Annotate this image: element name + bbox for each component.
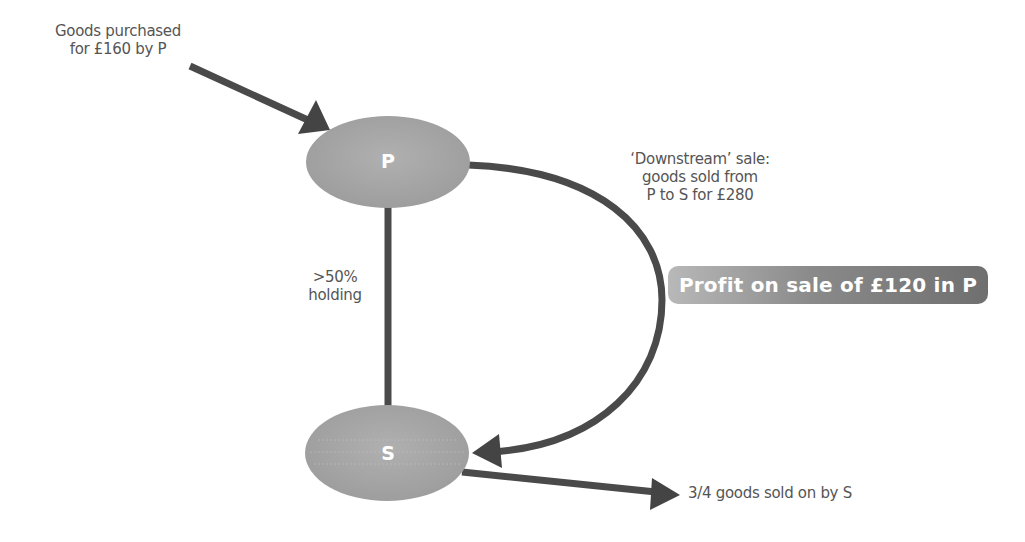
holding-label-line2: holding [290, 286, 380, 304]
sold-on-label: 3/4 goods sold on by S [688, 484, 908, 502]
purchase-label-line2: for £160 by P [28, 40, 208, 58]
downstream-label-line1: ‘Downstream’ sale: [600, 150, 800, 168]
downstream-label-line2: goods sold from [600, 168, 800, 186]
parent-node-label: P [368, 150, 408, 172]
downstream-label-line3: P to S for £280 [600, 186, 800, 204]
profit-callout: Profit on sale of £120 in P [668, 266, 988, 304]
holding-label-line1: >50% [290, 268, 380, 286]
subsidiary-node-label: S [368, 442, 408, 464]
sold-on-arrow [462, 472, 680, 510]
purchase-label-line1: Goods purchased [28, 22, 208, 40]
holding-label: >50% holding [290, 268, 380, 304]
purchase-label: Goods purchased for £160 by P [28, 22, 208, 58]
downstream-sale-arrow [468, 165, 662, 468]
purchase-arrow [190, 66, 330, 134]
downstream-sale-label: ‘Downstream’ sale: goods sold from P to … [600, 150, 800, 204]
